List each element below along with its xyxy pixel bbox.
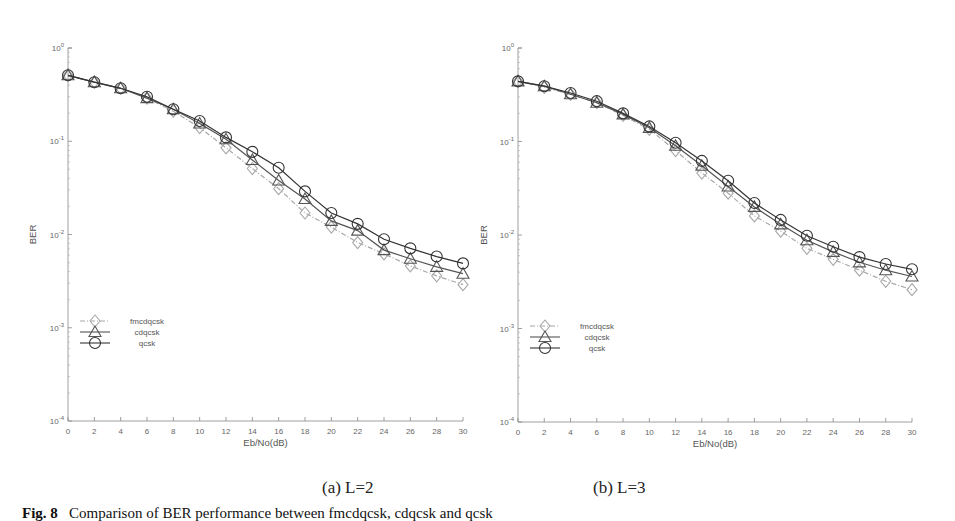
diamond-marker-icon <box>854 264 864 276</box>
y-tick-label: 10-4 <box>50 415 65 426</box>
x-tick-label: 30 <box>908 428 917 437</box>
x-tick-label: 22 <box>353 427 362 436</box>
figure-caption-text: Comparison of BER performance between fm… <box>69 505 493 521</box>
legend-label: cdqcsk <box>585 333 611 342</box>
figure-canvas: 10010-110-210-310-4024681012141618202224… <box>0 0 955 521</box>
series-cdqcsk <box>512 75 918 281</box>
y-tick-label: 100 <box>52 42 65 53</box>
x-axis-label: Eb/No(dB) <box>243 437 287 448</box>
subcaption-a: (a) L=2 <box>322 478 374 498</box>
series-line <box>518 81 912 289</box>
x-tick-label: 26 <box>406 427 415 436</box>
y-tick-label: 10-3 <box>50 322 65 333</box>
diamond-marker-icon <box>300 207 310 219</box>
figure-caption: Fig. 8 Comparison of BER performance bet… <box>22 505 493 521</box>
x-tick-label: 10 <box>645 428 654 437</box>
y-tick-label: 100 <box>502 42 515 53</box>
legend: fmcdqcskcdqcskqcsk <box>530 320 615 354</box>
legend-label: qcsk <box>139 339 156 348</box>
series-line <box>518 81 912 276</box>
diamond-marker-icon <box>458 279 468 291</box>
x-tick-label: 4 <box>568 428 573 437</box>
x-tick-label: 28 <box>432 427 441 436</box>
series-line <box>518 81 912 269</box>
y-tick-label: 10-2 <box>50 229 65 240</box>
x-tick-label: 2 <box>92 427 97 436</box>
triangle-marker-icon <box>827 246 839 257</box>
x-tick-label: 14 <box>697 428 706 437</box>
y-tick-label: 10-4 <box>500 416 515 427</box>
x-axis-label: Eb/No(dB) <box>693 438 737 449</box>
diamond-marker-icon <box>405 260 415 272</box>
x-tick-label: 12 <box>671 428 680 437</box>
x-tick-label: 4 <box>118 427 123 436</box>
series-line <box>68 75 463 263</box>
x-tick-label: 0 <box>516 428 521 437</box>
y-tick-label: 10-1 <box>50 135 65 146</box>
y-tick-label: 10-1 <box>500 136 515 147</box>
series-cdqcsk <box>62 69 469 278</box>
figure-caption-prefix: Fig. 8 <box>22 505 58 521</box>
x-tick-label: 18 <box>750 428 759 437</box>
legend-label: cdqcsk <box>135 328 161 337</box>
x-tick-label: 10 <box>195 427 204 436</box>
y-axis-label: BER <box>478 225 489 245</box>
x-tick-label: 14 <box>248 427 257 436</box>
x-tick-label: 24 <box>380 427 389 436</box>
x-tick-label: 0 <box>66 427 71 436</box>
series-qcsk <box>63 70 469 269</box>
chart-panel-b: 10010-110-210-310-4024681012141618202224… <box>478 42 918 449</box>
x-tick-label: 30 <box>459 427 468 436</box>
chart-panel-a: 10010-110-210-310-4024681012141618202224… <box>27 42 469 448</box>
x-tick-label: 20 <box>327 427 336 436</box>
x-tick-label: 22 <box>802 428 811 437</box>
y-axis-label: BER <box>27 225 38 245</box>
x-tick-label: 12 <box>222 427 231 436</box>
x-tick-label: 6 <box>145 427 150 436</box>
series-line <box>68 75 463 273</box>
legend-label: qcsk <box>589 344 606 353</box>
x-tick-label: 26 <box>855 428 864 437</box>
x-tick-label: 16 <box>724 428 733 437</box>
series-line <box>68 75 463 284</box>
x-tick-label: 2 <box>542 428 547 437</box>
x-tick-label: 8 <box>171 427 176 436</box>
subcaption-b: (b) L=3 <box>593 478 646 498</box>
legend-label: fmcdqcsk <box>130 317 165 326</box>
diamond-marker-icon <box>326 221 336 233</box>
x-tick-label: 28 <box>881 428 890 437</box>
legend: fmcdqcskcdqcskqcsk <box>80 315 165 349</box>
y-tick-label: 10-3 <box>500 323 515 334</box>
y-tick-label: 10-2 <box>500 229 515 240</box>
x-tick-label: 20 <box>776 428 785 437</box>
diamond-marker-icon <box>353 237 363 249</box>
diamond-marker-icon <box>828 253 838 265</box>
x-tick-label: 18 <box>301 427 310 436</box>
legend-label: fmcdqcsk <box>580 322 615 331</box>
x-tick-label: 8 <box>621 428 626 437</box>
x-tick-label: 16 <box>274 427 283 436</box>
x-tick-label: 6 <box>595 428 600 437</box>
x-tick-label: 24 <box>829 428 838 437</box>
diamond-marker-icon <box>802 242 812 254</box>
series-qcsk <box>513 76 918 275</box>
